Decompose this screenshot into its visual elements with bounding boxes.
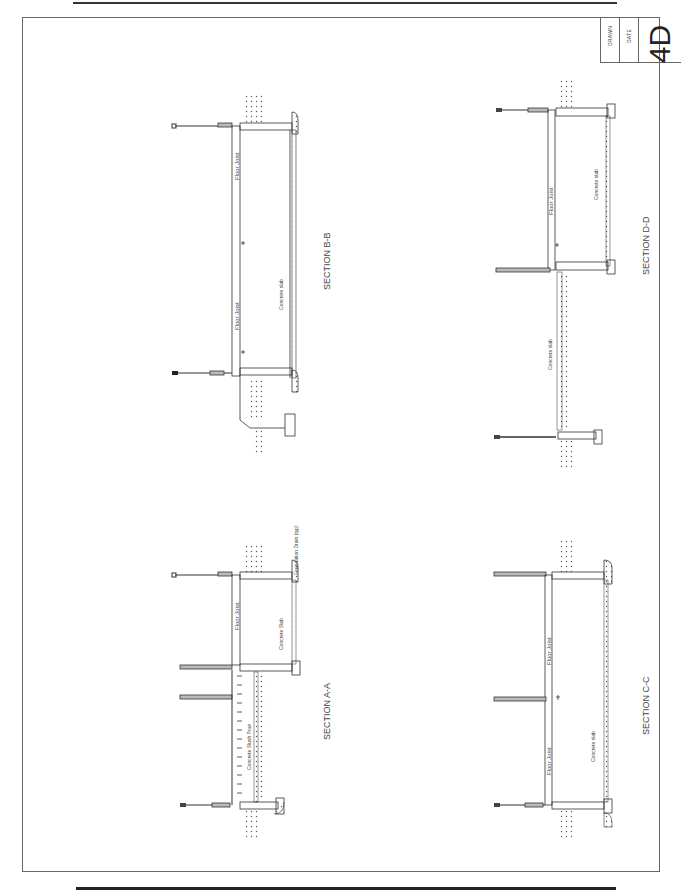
concrete-slab-label: Concrete slab (547, 339, 553, 370)
floor-joist-label: Floor Joist (548, 187, 554, 215)
section-title: SECTION A-A (322, 683, 332, 740)
section-b-b: Floor Joist Floor Joist Concrete slab SE… (172, 95, 332, 455)
section-d-d: Floor Joist Concrete slab Concrete slab … (494, 80, 651, 468)
floor-joist-label: Floor Joist (234, 602, 240, 630)
section-title: SECTION C-C (641, 676, 651, 735)
floor-joist-label: Floor Joist (546, 637, 552, 665)
floor-joist-label: Floor Joist (546, 747, 552, 775)
section-a-a: Floor Joist Concrete Slab Foundation Dra… (172, 525, 332, 840)
soil-hatch (245, 95, 262, 125)
concrete-slab-label: Concrete slab (278, 279, 284, 310)
slush-pour-label: Concrete Slush Pour (246, 724, 252, 770)
foundation-drain-label: Foundation Drain (typ) (293, 525, 299, 575)
concrete-slab-label: Concrete slab (590, 731, 596, 762)
floor-joist-label: Floor Joist (234, 152, 240, 180)
bottom-rule (76, 887, 616, 890)
section-title: SECTION D-D (641, 216, 651, 275)
section-c-c: Floor Joist Floor Joist Concrete slab SE… (494, 540, 651, 840)
concrete-slab-label: Concrete slab (593, 169, 599, 200)
concrete-slab-label: Concrete Slab (278, 618, 284, 650)
floor-joist-label: Floor Joist (234, 302, 240, 330)
section-title: SECTION B-B (322, 232, 332, 290)
